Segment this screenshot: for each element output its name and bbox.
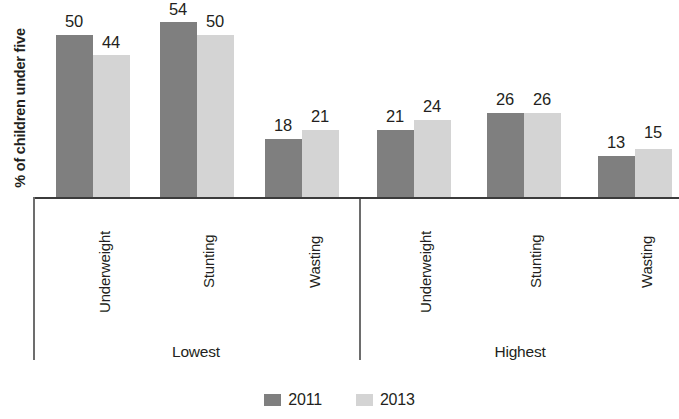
bar-value-label: 15 (633, 123, 673, 142)
bar-lowest-stunting-2011[interactable] (160, 22, 197, 198)
bar-lowest-wasting-2011[interactable] (265, 139, 302, 198)
bar-value-label: 21 (375, 107, 415, 126)
legend-swatch-icon (264, 394, 281, 406)
axis-left-border (33, 197, 35, 360)
bar-highest-wasting-2013[interactable] (635, 149, 672, 198)
legend-label: 2011 (288, 391, 322, 409)
bar-value-label: 18 (263, 116, 303, 135)
bar-highest-stunting-2011[interactable] (487, 113, 524, 198)
bar-value-label: 21 (300, 107, 340, 126)
bar-lowest-underweight-2013[interactable] (93, 55, 130, 198)
bar-value-label: 50 (195, 12, 235, 31)
bar-value-label: 50 (54, 12, 94, 31)
plot-area: 50 44 54 50 18 21 21 24 26 26 13 15 Unde… (0, 0, 679, 419)
legend-swatch-icon (356, 394, 373, 406)
bar-chart: % of children under five 50 44 (0, 0, 679, 419)
legend-item-2013[interactable]: 2013 (356, 391, 415, 409)
axis-group-divider (359, 199, 361, 360)
bars-layer (0, 0, 679, 198)
chart-legend: 2011 2013 (0, 391, 679, 409)
group-label-highest: Highest (440, 343, 600, 361)
bar-lowest-wasting-2013[interactable] (302, 130, 339, 198)
bar-value-label: 13 (596, 133, 636, 152)
category-label-lowest-wasting: Wasting (306, 236, 323, 288)
category-label-highest-stunting: Stunting (527, 235, 544, 288)
category-label-highest-wasting: Wasting (638, 236, 655, 288)
bar-highest-underweight-2013[interactable] (414, 120, 451, 198)
bar-value-label: 44 (91, 33, 131, 52)
category-label-highest-underweight: Underweight (417, 231, 434, 313)
bar-highest-wasting-2011[interactable] (598, 156, 635, 198)
bar-lowest-underweight-2011[interactable] (56, 35, 93, 198)
bar-value-label: 54 (158, 0, 198, 19)
bar-value-label: 26 (522, 90, 562, 109)
bar-highest-underweight-2011[interactable] (377, 130, 414, 198)
legend-item-2011[interactable]: 2011 (264, 391, 322, 409)
legend-label: 2013 (380, 391, 415, 409)
bar-value-label: 24 (412, 97, 452, 116)
group-label-lowest: Lowest (116, 343, 276, 361)
axis-baseline (33, 197, 679, 199)
category-label-lowest-stunting: Stunting (200, 235, 217, 288)
category-label-lowest-underweight: Underweight (96, 231, 113, 313)
bar-value-label: 26 (485, 90, 525, 109)
bar-lowest-stunting-2013[interactable] (197, 35, 234, 198)
bar-highest-stunting-2013[interactable] (524, 113, 561, 198)
